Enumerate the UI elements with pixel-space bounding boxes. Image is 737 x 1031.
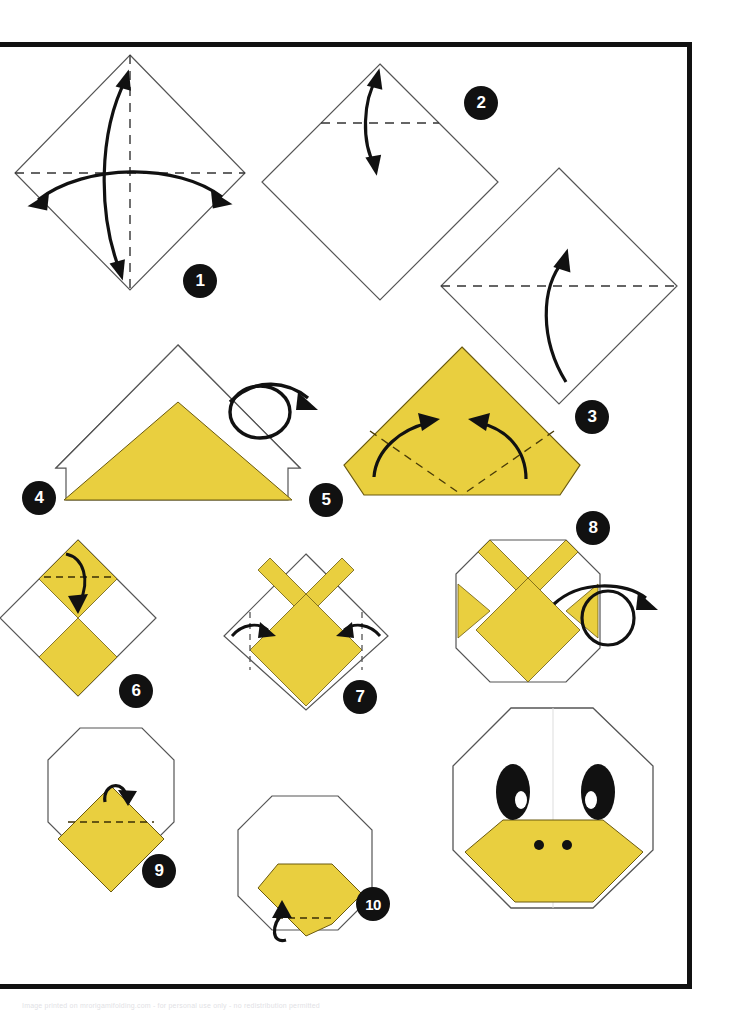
step-badge-10: 10 — [356, 887, 390, 921]
duck-eye-left-highlight — [515, 791, 527, 809]
step-9-diagram — [38, 718, 208, 898]
duck-eye-left — [496, 764, 530, 820]
duck-nostril-right — [562, 840, 572, 850]
duck-eye-right-highlight — [585, 791, 597, 809]
arrowhead-turnover — [636, 592, 658, 610]
step-badge-8: 8 — [576, 511, 610, 545]
step-6-diagram — [0, 532, 180, 702]
step-badge-4: 4 — [22, 481, 56, 515]
step-5-diagram — [312, 343, 592, 508]
step-badge-7: 7 — [343, 680, 377, 714]
step-badge-5: 5 — [309, 483, 343, 517]
step-10-diagram — [228, 788, 408, 948]
step-badge-9: 9 — [142, 854, 176, 888]
frame-border-right — [687, 42, 692, 989]
paper-front-pentagon — [344, 347, 580, 495]
duck-eye-right — [581, 764, 615, 820]
step-badge-2: 2 — [464, 86, 498, 120]
duck-nostril-left — [534, 840, 544, 850]
step-8-diagram — [448, 528, 678, 708]
step-badge-1: 1 — [183, 264, 217, 298]
step-1-diagram — [0, 45, 250, 295]
frame-border-bottom — [0, 984, 692, 989]
origami-instruction-sheet: 1 2 3 4 — [0, 0, 737, 1031]
step-badge-6: 6 — [119, 674, 153, 708]
step-4-diagram — [50, 340, 330, 510]
footer-credit-text: Image printed on mrorigamifolding.com - … — [22, 1002, 682, 1012]
duck-beak — [465, 820, 643, 902]
finished-duck-face-diagram — [443, 700, 683, 940]
